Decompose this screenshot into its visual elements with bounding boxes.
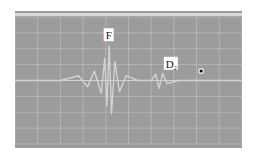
- marker-dot: [200, 69, 203, 72]
- label-text: D: [166, 58, 174, 70]
- top-bright-band: [15, 13, 242, 16]
- ascan-screen: FD2: [15, 11, 242, 148]
- markers: [198, 68, 204, 74]
- annotation-label: F: [104, 28, 114, 41]
- label-subscript: 2: [174, 65, 177, 71]
- ascan-plot: FD2: [15, 11, 242, 148]
- annotation-label: D2: [164, 57, 178, 71]
- label-text: F: [106, 29, 112, 41]
